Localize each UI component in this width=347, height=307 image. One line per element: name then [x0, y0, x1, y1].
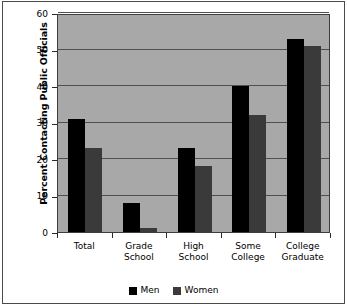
x-axis-label-total: Total — [57, 241, 112, 252]
x-axis-label-line: College — [221, 252, 276, 263]
bar-men-total — [68, 119, 85, 232]
y-axis-tick-label: 20 — [8, 156, 48, 165]
gridline — [58, 12, 329, 13]
plot-inner — [58, 15, 329, 232]
x-axis-label-high-school: HighSchool — [166, 241, 221, 263]
plot-area — [57, 14, 330, 233]
bar-women-college-graduate — [304, 46, 321, 232]
x-axis-label-line: Graduate — [275, 252, 330, 263]
y-axis-tick-label: 10 — [8, 192, 48, 201]
legend-label: Men — [141, 286, 160, 295]
chart-legend: MenWomen — [0, 286, 347, 295]
bar-women-total — [85, 148, 102, 232]
x-axis-label-line: Some — [221, 241, 276, 252]
x-axis-label-line: High — [166, 241, 221, 252]
x-axis-tick — [330, 233, 331, 238]
x-axis-label-line: Total — [57, 241, 112, 252]
x-axis-tick — [221, 233, 222, 238]
bar-men-grade-school — [123, 203, 140, 232]
legend-item-men[interactable]: Men — [129, 286, 160, 295]
y-axis-title: Percent Contacting Public Officials — [38, 9, 49, 219]
bar-women-some-college — [249, 115, 266, 232]
x-axis-tick — [166, 233, 167, 238]
y-axis-tick-label: 30 — [8, 119, 48, 128]
legend-label: Women — [185, 286, 219, 295]
x-axis-tick — [57, 233, 58, 238]
x-axis-label-college-graduate: CollegeGraduate — [275, 241, 330, 263]
bar-men-high-school — [178, 148, 195, 232]
legend-swatch-icon — [129, 287, 137, 295]
bar-men-some-college — [232, 86, 249, 232]
x-axis-tick — [275, 233, 276, 238]
y-axis-tick-label: 0 — [8, 229, 48, 238]
y-axis-tick-label: 40 — [8, 83, 48, 92]
x-axis-tick — [112, 233, 113, 238]
y-axis-tick-label: 60 — [8, 10, 48, 19]
y-axis-tick-label: 50 — [8, 46, 48, 55]
x-axis-label-line: College — [275, 241, 330, 252]
x-axis-label-line: School — [166, 252, 221, 263]
bar-men-college-graduate — [287, 39, 304, 232]
x-axis-label-some-college: SomeCollege — [221, 241, 276, 263]
chart-figure: Percent Contacting Public Officials 0102… — [0, 0, 347, 307]
legend-item-women[interactable]: Women — [173, 286, 219, 295]
x-axis-label-line: Grade — [112, 241, 167, 252]
legend-swatch-icon — [173, 287, 181, 295]
x-axis-label-grade-school: GradeSchool — [112, 241, 167, 263]
bar-women-high-school — [195, 166, 212, 232]
bar-women-grade-school — [140, 228, 157, 232]
x-axis-label-line: School — [112, 252, 167, 263]
